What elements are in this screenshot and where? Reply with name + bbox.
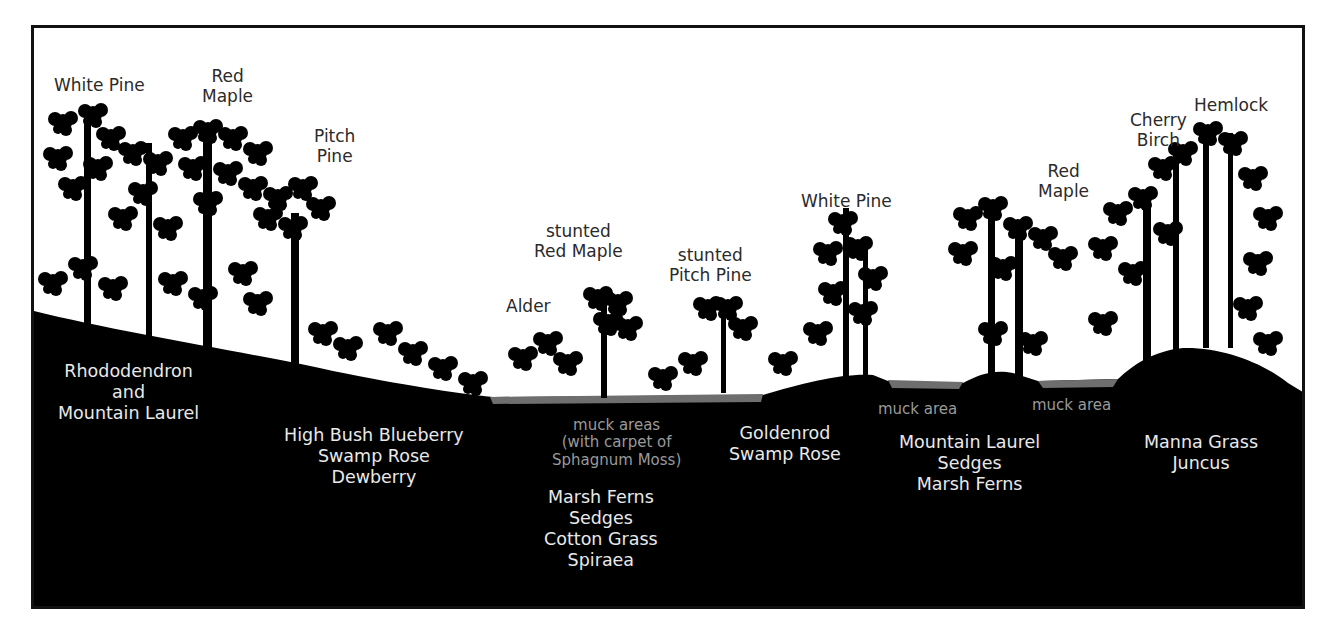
label-rhododendron-zone: RhododendronandMountain Laurel [58, 361, 199, 424]
label-white-pine-center: White Pine [801, 191, 892, 211]
label-white-pine-left: White Pine [54, 75, 145, 95]
label-hemlock: Hemlock [1194, 95, 1268, 115]
label-pitch-pine: PitchPine [314, 126, 355, 166]
label-manna-grass-zone: Manna GrassJuncus [1144, 432, 1258, 474]
label-laurel-sedge-zone: Mountain LaurelSedgesMarsh Ferns [899, 432, 1040, 495]
label-bog-center-zone: Marsh FernsSedgesCotton GrassSpiraea [544, 487, 658, 571]
label-stunted-red-maple: stuntedRed Maple [534, 221, 623, 261]
label-muck-area-1: muck area [878, 401, 957, 418]
muck-strip-1 [888, 380, 963, 389]
label-stunted-pitch-pine: stuntedPitch Pine [669, 245, 752, 285]
label-goldenrod-zone: GoldenrodSwamp Rose [729, 423, 841, 465]
label-alder: Alder [506, 296, 551, 316]
label-muck-area-2: muck area [1032, 397, 1111, 414]
label-cherry-birch: CherryBirch [1130, 110, 1187, 150]
label-muck-areas-center: muck areas(with carpet ofSphagnum Moss) [552, 417, 681, 469]
muck-strip-2 [1038, 379, 1118, 388]
vegetation-silhouette [34, 28, 1305, 609]
label-blueberry-zone: High Bush BlueberrySwamp RoseDewberry [284, 425, 464, 488]
diagram-frame: White Pine RedMaple PitchPine Alder stun… [31, 25, 1305, 609]
label-red-maple-right: RedMaple [1038, 161, 1089, 201]
label-red-maple-left: RedMaple [202, 66, 253, 106]
